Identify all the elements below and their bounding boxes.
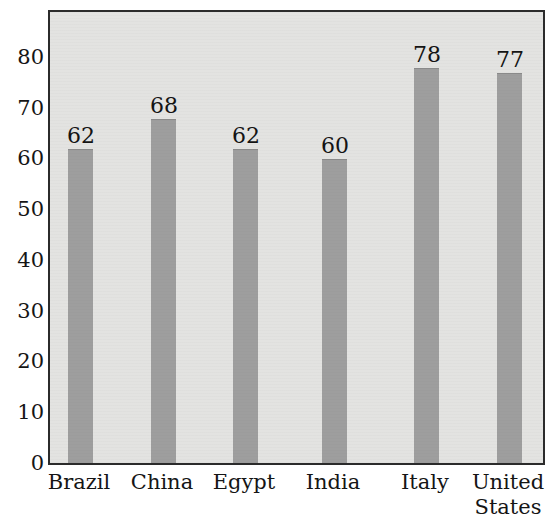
bar-value-brazil: 62 [46, 125, 116, 147]
x-category-line: China [118, 470, 206, 495]
x-category-italy: Italy [381, 470, 469, 495]
y-tick-label: 10 [0, 402, 44, 423]
y-axis: 80 70 60 50 40 30 20 10 0 [0, 0, 44, 518]
y-tick-label: 60 [0, 148, 44, 169]
bar-chart: 80 70 60 50 40 30 20 10 0 62 68 62 60 78… [0, 0, 558, 518]
x-category-line: Brazil [35, 470, 123, 495]
x-category-line: India [289, 470, 377, 495]
y-tick-label: 50 [0, 199, 44, 220]
x-category-line: Italy [381, 470, 469, 495]
bar-united-states [497, 73, 522, 463]
chart-title-clipped [0, 0, 558, 1]
bar-brazil [68, 149, 93, 463]
bar-value-italy: 78 [392, 44, 462, 66]
x-category-china: China [118, 470, 206, 495]
x-axis: Brazil China Egypt India Italy United St… [48, 470, 545, 518]
y-tick-label: 40 [0, 250, 44, 271]
bar-value-india: 60 [300, 135, 370, 157]
y-tick-label: 80 [0, 47, 44, 68]
y-tick-label: 30 [0, 301, 44, 322]
bar-india [322, 159, 347, 463]
x-category-brazil: Brazil [35, 470, 123, 495]
x-category-egypt: Egypt [200, 470, 288, 495]
x-category-india: India [289, 470, 377, 495]
x-category-line: States [464, 495, 552, 518]
plot-area: 62 68 62 60 78 77 [48, 10, 545, 465]
bar-value-china: 68 [129, 95, 199, 117]
bar-value-egypt: 62 [211, 125, 281, 147]
x-category-line: United [464, 470, 552, 495]
bar-value-united-states: 77 [475, 49, 545, 71]
plot-inner: 62 68 62 60 78 77 [50, 12, 543, 463]
y-tick-label: 70 [0, 98, 44, 119]
bar-egypt [233, 149, 258, 463]
bar-china [151, 119, 176, 463]
y-tick-label: 20 [0, 351, 44, 372]
bar-italy [414, 68, 439, 463]
x-category-united-states: United States [464, 470, 552, 518]
x-category-line: Egypt [200, 470, 288, 495]
